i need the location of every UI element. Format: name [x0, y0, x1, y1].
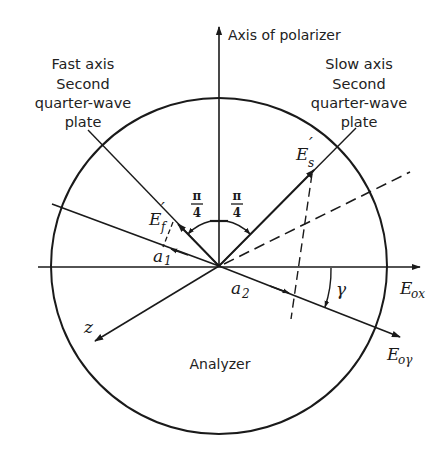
z-label: z	[83, 317, 94, 337]
svg-text:π: π	[233, 189, 242, 203]
es-prime-label: E s ′	[295, 133, 314, 170]
svg-text:′: ′	[309, 133, 313, 153]
z-axis-line	[95, 266, 219, 341]
svg-text:plate: plate	[341, 114, 378, 130]
svg-text:quarter-wave: quarter-wave	[35, 95, 131, 111]
svg-text:4: 4	[233, 206, 241, 220]
svg-text:E: E	[295, 144, 309, 164]
svg-text:a: a	[231, 278, 241, 298]
svg-text:s: s	[308, 156, 314, 170]
svg-text:Slow axis: Slow axis	[325, 56, 393, 72]
ef-vector	[178, 224, 219, 266]
polarizer-axis-label: Axis of polarizer	[228, 27, 341, 43]
slow-axis-label: Slow axis Second quarter-wave plate	[311, 56, 407, 130]
svg-text:oγ: oγ	[398, 353, 413, 367]
angle-right-label: π 4	[231, 189, 243, 220]
resultant-dashed-line	[224, 172, 410, 264]
svg-text:4: 4	[193, 206, 201, 220]
svg-text:a: a	[153, 246, 163, 266]
es-projection-dashed	[291, 174, 312, 319]
svg-text:f: f	[160, 220, 168, 234]
a2-arrow	[270, 286, 289, 293]
gamma-label: γ	[336, 279, 347, 299]
svg-text:E: E	[148, 209, 162, 229]
svg-text:ox: ox	[411, 287, 425, 301]
analyzer-label: Analyzer	[190, 356, 251, 372]
a2-label: a 2	[231, 278, 250, 301]
svg-text:Fast axis: Fast axis	[52, 56, 115, 72]
angle-arc-right	[226, 221, 250, 234]
svg-text:Second: Second	[332, 76, 385, 92]
angle-arc-left	[188, 221, 211, 234]
eoy-axis-line	[219, 266, 400, 337]
eox-label: E ox	[399, 278, 425, 301]
svg-text:plate: plate	[65, 114, 102, 130]
svg-text:2: 2	[241, 287, 250, 301]
svg-text:π: π	[193, 189, 202, 203]
eoy-label: E oγ	[386, 344, 413, 367]
svg-text:1: 1	[164, 254, 172, 268]
polarization-diagram: Axis of polarizer Fast axis Second quart…	[0, 0, 448, 457]
fast-axis-label: Fast axis Second quarter-wave plate	[35, 56, 131, 130]
a1-label: a 1	[153, 246, 172, 268]
svg-text:Second: Second	[56, 76, 109, 92]
angle-left-label: π 4	[191, 189, 203, 220]
gamma-arc	[325, 268, 331, 307]
a1-arrow	[171, 249, 188, 255]
svg-text:quarter-wave: quarter-wave	[311, 95, 407, 111]
svg-text:′: ′	[161, 198, 165, 218]
